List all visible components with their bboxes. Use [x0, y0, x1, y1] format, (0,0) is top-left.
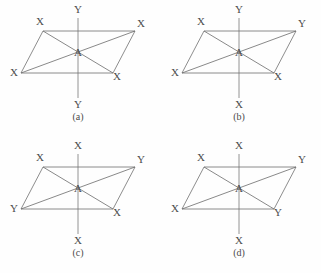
label-bottom-left: X — [171, 66, 179, 78]
label-top-right: Y — [137, 153, 145, 165]
label-bottom-right: X — [113, 206, 121, 218]
label-top-left: X — [36, 151, 44, 163]
panel-b: Y X X Y X X A (b) — [161, 0, 321, 136]
label-top-left: X — [197, 15, 205, 27]
panel-caption: (c) — [72, 247, 83, 259]
label-center-atom: A — [235, 182, 243, 194]
edge-left — [182, 31, 204, 73]
panel-caption: (a) — [72, 111, 83, 123]
label-center-atom: A — [74, 46, 82, 58]
label-bottom-right: X — [113, 70, 121, 82]
label-axial-top: X — [74, 139, 82, 151]
panel-caption: (b) — [233, 111, 245, 123]
label-bottom-right: Y — [274, 206, 282, 218]
edge-right — [113, 167, 135, 209]
panel-c: X X X Y Y X A (c) — [0, 136, 160, 272]
label-axial-bottom: X — [235, 234, 243, 246]
label-bottom-left: X — [10, 66, 18, 78]
isomer-figure: Y Y X X X X A (a) Y X X Y X X A (b) — [0, 0, 321, 273]
label-bottom-left: X — [171, 202, 179, 214]
label-top-right: Y — [298, 17, 306, 29]
label-axial-bottom: X — [235, 98, 243, 110]
label-bottom-left: Y — [10, 202, 18, 214]
edge-right — [274, 167, 296, 209]
label-axial-top: X — [235, 139, 243, 151]
edge-left — [182, 167, 204, 209]
edge-right — [274, 31, 296, 73]
label-bottom-right: X — [274, 70, 282, 82]
panel-b-diagram: Y X X Y X X A (b) — [161, 0, 321, 136]
label-top-left: X — [36, 15, 44, 27]
edge-left — [21, 167, 43, 209]
label-top-right: X — [137, 17, 145, 29]
panel-d-diagram: X X X Y X Y A (d) — [161, 136, 321, 272]
edge-left — [21, 31, 43, 73]
label-axial-top: Y — [74, 3, 82, 15]
label-top-right: Y — [298, 153, 306, 165]
label-center-atom: A — [74, 182, 82, 194]
panel-caption: (d) — [233, 247, 245, 259]
panel-a: Y Y X X X X A (a) — [0, 0, 160, 136]
label-axial-top: Y — [235, 3, 243, 15]
label-axial-bottom: X — [74, 234, 82, 246]
panel-a-diagram: Y Y X X X X A (a) — [0, 0, 160, 136]
panel-d: X X X Y X Y A (d) — [161, 136, 321, 272]
panel-c-diagram: X X X Y Y X A (c) — [0, 136, 160, 272]
label-center-atom: A — [235, 46, 243, 58]
edge-right — [113, 31, 135, 73]
label-axial-bottom: Y — [74, 98, 82, 110]
label-top-left: X — [197, 151, 205, 163]
